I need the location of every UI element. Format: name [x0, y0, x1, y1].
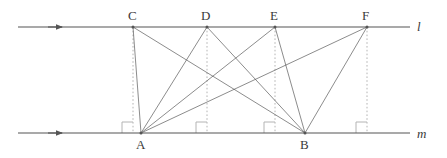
parallel-lines-group [18, 27, 410, 133]
segment-FB [305, 27, 367, 133]
segment-FA [141, 27, 367, 133]
segments-group [133, 27, 367, 133]
point-dot-F [366, 26, 369, 29]
right-angle-marks-group [122, 122, 367, 133]
point-label-E: E [270, 9, 278, 22]
point-dot-A [140, 132, 143, 135]
point-label-D: D [201, 9, 210, 22]
line-label-m: m [417, 127, 426, 140]
point-label-B: B [300, 138, 309, 151]
right-angle-mark-ra-F [356, 122, 367, 133]
altitude-lines-group [133, 27, 367, 133]
direction-arrows-group [48, 27, 62, 133]
point-dot-B [304, 132, 307, 135]
geometry-figure: CDEFABlm [0, 0, 447, 158]
right-angle-mark-ra-E [264, 122, 275, 133]
point-label-A: A [136, 138, 145, 151]
point-label-C: C [128, 9, 137, 22]
point-dot-D [206, 26, 209, 29]
point-label-F: F [362, 9, 369, 22]
right-angle-mark-ra-D [196, 122, 207, 133]
line-label-l: l [417, 20, 421, 33]
right-angle-mark-ra-C [122, 122, 133, 133]
point-dot-C [132, 26, 135, 29]
geometry-canvas [0, 0, 447, 158]
segment-CA [133, 27, 141, 133]
point-dot-E [274, 26, 277, 29]
point-markers-group [132, 26, 369, 135]
